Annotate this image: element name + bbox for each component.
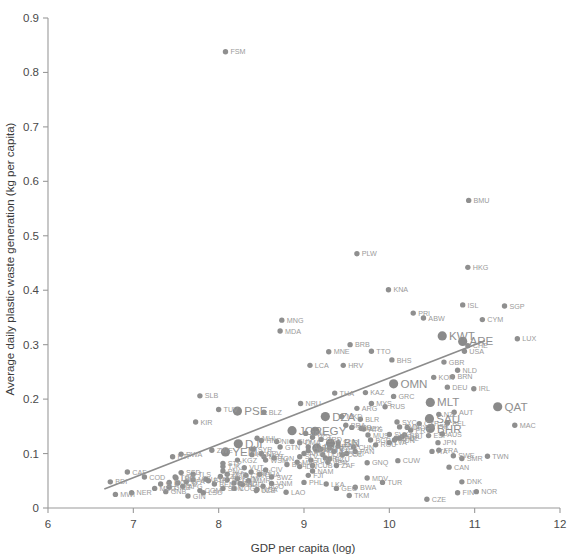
- data-point-label: SMR: [467, 454, 483, 463]
- data-point: [321, 412, 330, 421]
- data-point-label: ISL: [468, 301, 479, 310]
- scatter-plot: 6789101112 00.10.20.30.40.50.60.70.80.9 …: [0, 0, 567, 559]
- data-point-label: MNG: [287, 316, 304, 325]
- x-axis-title: GDP per capita (log): [251, 542, 356, 554]
- data-point-label: IDN: [305, 462, 317, 471]
- data-point-label: FIN: [463, 488, 475, 497]
- data-point-label: BHS: [397, 356, 412, 365]
- data-point: [125, 469, 130, 474]
- data-point: [429, 449, 434, 454]
- data-point-label: BRN: [457, 372, 472, 381]
- data-point-label: SUR: [343, 438, 358, 447]
- data-point-label: CZE: [432, 495, 447, 504]
- data-point-label: SVK: [394, 430, 409, 439]
- data-point: [460, 302, 465, 307]
- data-point-label: MAC: [520, 421, 536, 430]
- y-tick-label: 0.3: [23, 339, 39, 351]
- data-point-label: LUX: [522, 334, 536, 343]
- data-point-label: OMN: [400, 377, 427, 390]
- data-point: [277, 328, 282, 333]
- data-point-label: QAT: [505, 400, 528, 413]
- data-point-label: AUT: [459, 408, 474, 417]
- data-point-label: IRQ: [330, 454, 343, 463]
- data-point-label: PLW: [362, 249, 377, 258]
- data-point: [341, 363, 346, 368]
- data-point: [424, 497, 429, 502]
- y-axis-title: Average daily plastic waste generation (…: [4, 122, 16, 395]
- x-axis-ticks: 6789101112: [45, 508, 567, 530]
- y-tick-label: 0.5: [23, 230, 39, 242]
- data-point-label: GIN: [193, 492, 206, 501]
- x-tick-label: 6: [45, 518, 51, 530]
- data-point-label: HRV: [348, 361, 363, 370]
- data-point: [446, 464, 451, 469]
- data-point-label: KIR: [201, 418, 213, 427]
- y-tick-label: 0.2: [23, 393, 39, 405]
- data-point: [512, 423, 517, 428]
- data-point-label: TWN: [492, 452, 508, 461]
- data-point: [113, 492, 118, 497]
- data-point: [301, 480, 306, 485]
- data-point: [307, 363, 312, 368]
- data-point: [363, 390, 368, 395]
- data-point: [445, 384, 450, 389]
- data-point-label: FSM: [230, 47, 245, 56]
- x-tick-label: 9: [301, 518, 307, 530]
- data-point: [435, 440, 440, 445]
- data-point: [465, 265, 470, 270]
- data-point-label: AUS: [447, 430, 462, 439]
- data-point-label: NOR: [481, 487, 497, 496]
- data-point-label: TTO: [376, 347, 391, 356]
- y-tick-label: 0.9: [23, 12, 39, 24]
- data-point-label: KOR: [439, 373, 455, 382]
- data-point-label: BRB: [355, 340, 370, 349]
- data-point: [193, 419, 198, 424]
- data-point-label: TUV: [224, 405, 239, 414]
- data-point-label: TLS: [198, 470, 211, 479]
- data-point-label: DNK: [467, 477, 482, 486]
- data-point-label: LAO: [291, 488, 306, 497]
- x-tick-label: 12: [554, 518, 567, 530]
- data-point: [223, 49, 228, 54]
- data-point-label: SGP: [509, 302, 524, 311]
- data-point: [170, 454, 175, 459]
- data-point: [389, 357, 394, 362]
- data-point: [354, 251, 359, 256]
- data-point: [389, 379, 398, 388]
- data-point-label: IRL: [479, 384, 490, 393]
- data-point-label: BMU: [474, 196, 490, 205]
- data-point-label: HTI: [177, 452, 189, 461]
- x-tick-label: 7: [130, 518, 136, 530]
- data-point-label: SLB: [205, 391, 219, 400]
- y-tick-label: 0.8: [23, 66, 39, 78]
- data-point-label: UKR: [313, 446, 328, 455]
- data-point-label: DEU: [452, 383, 467, 392]
- data-point-label: LVA: [394, 438, 407, 447]
- data-point-label: MNE: [334, 347, 350, 356]
- y-axis-ticks: 00.10.20.30.40.50.60.70.80.9: [23, 12, 48, 514]
- data-point: [455, 490, 460, 495]
- data-point-label: KGZ: [242, 456, 257, 465]
- data-point-label: LSO: [208, 488, 223, 497]
- data-point: [197, 393, 202, 398]
- data-point: [287, 426, 296, 435]
- data-point-label: ARG: [362, 404, 378, 413]
- data-point: [364, 460, 369, 465]
- data-point-label: MKD: [346, 412, 362, 421]
- data-point-label: MHL: [262, 434, 277, 443]
- data-point-label: CAN: [454, 463, 469, 472]
- data-point: [493, 402, 502, 411]
- data-point-label: TON: [279, 454, 294, 463]
- data-point-label: RUS: [390, 402, 405, 411]
- data-point: [411, 310, 416, 315]
- data-point: [220, 464, 225, 469]
- data-point: [485, 454, 490, 459]
- data-point: [332, 390, 337, 395]
- data-point-label: FJI: [313, 471, 323, 480]
- data-point: [108, 479, 113, 484]
- data-point-label: LCA: [315, 361, 329, 370]
- data-point: [441, 359, 446, 364]
- data-point: [326, 349, 331, 354]
- y-tick-label: 0.4: [23, 284, 40, 296]
- data-point-label: EST: [410, 431, 425, 440]
